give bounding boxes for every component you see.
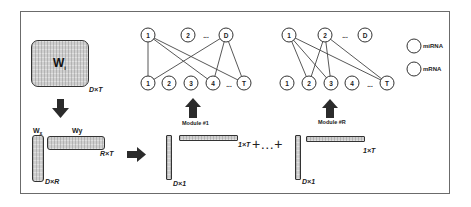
- svg-text:4: 4: [211, 80, 215, 87]
- svg-text:D: D: [363, 32, 368, 39]
- legend-mirna-circle-icon: [407, 39, 421, 53]
- svg-text:...: ...: [203, 32, 209, 39]
- graph-layer: 1 2 ... D 1 2 3 4 ... T 1 2 ... D: [0, 0, 471, 207]
- svg-text:1: 1: [285, 80, 289, 87]
- svg-text:...: ...: [367, 81, 373, 88]
- svg-text:1: 1: [287, 32, 291, 39]
- svg-text:1: 1: [146, 80, 150, 87]
- diagram-canvas: Wi D×T Wx Wy R×T D×R 1×T D×1 Module #1 +…: [0, 0, 471, 207]
- svg-text:T: T: [385, 80, 389, 87]
- svg-text:...: ...: [226, 81, 232, 88]
- svg-text:3: 3: [189, 80, 193, 87]
- svg-text:4: 4: [350, 80, 354, 87]
- module-1-edges: [148, 35, 244, 83]
- module-r-edges: [289, 35, 387, 83]
- svg-text:1: 1: [146, 32, 150, 39]
- svg-text:3: 3: [329, 80, 333, 87]
- right-arrow-icon: [127, 147, 146, 162]
- legend-mrna-circle-icon: [407, 62, 421, 76]
- svg-text:2: 2: [323, 32, 327, 39]
- svg-text:2: 2: [307, 80, 311, 87]
- svg-text:2: 2: [167, 80, 171, 87]
- svg-text:...: ...: [342, 32, 348, 39]
- module-r-up-arrow-icon: [322, 99, 338, 118]
- svg-text:D: D: [224, 32, 229, 39]
- down-arrow-icon: [52, 99, 69, 118]
- svg-text:2: 2: [186, 32, 190, 39]
- svg-text:T: T: [242, 80, 246, 87]
- module-1-up-arrow-icon: [185, 98, 201, 118]
